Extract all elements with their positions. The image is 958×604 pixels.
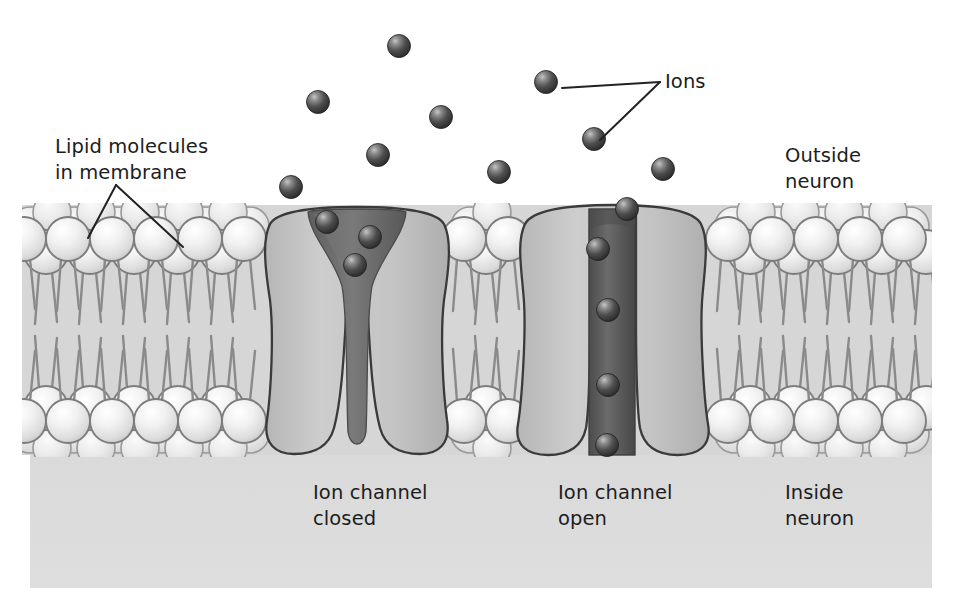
- ion-channel-closed[interactable]: [265, 207, 449, 454]
- membrane: [2, 193, 948, 467]
- upper-leaflet-lipids: [2, 217, 948, 324]
- ion-free: [367, 144, 390, 167]
- label-ion-channel-open: Ion channel open: [558, 480, 673, 532]
- label-inside-neuron: Inside neuron: [785, 480, 854, 532]
- ion-permeating: [597, 299, 620, 322]
- ion-blocked: [359, 226, 382, 249]
- ion-blocked: [316, 211, 339, 234]
- ion-permeating: [616, 198, 639, 221]
- ion-permeating: [587, 238, 610, 261]
- label-ions: Ions: [665, 69, 706, 95]
- label-outside-neuron: Outside neuron: [785, 143, 861, 195]
- ion-free: [280, 176, 303, 199]
- ion-free: [535, 71, 558, 94]
- lower-leaflet-lipids: [2, 336, 948, 443]
- ion-free: [388, 35, 411, 58]
- label-ion-channel-closed: Ion channel closed: [313, 480, 428, 532]
- ion-blocked: [344, 254, 367, 277]
- ion-channel-open[interactable]: [517, 205, 708, 455]
- ion-free: [307, 91, 330, 114]
- ion-free: [652, 158, 675, 181]
- ion-permeating: [597, 374, 620, 397]
- ion-permeating: [596, 434, 619, 457]
- ion-free: [488, 161, 511, 184]
- ion-free: [430, 106, 453, 129]
- diagram-canvas: Lipid molecules in membrane Ions Outside…: [0, 0, 958, 604]
- label-lipid-molecules: Lipid molecules in membrane: [55, 134, 208, 186]
